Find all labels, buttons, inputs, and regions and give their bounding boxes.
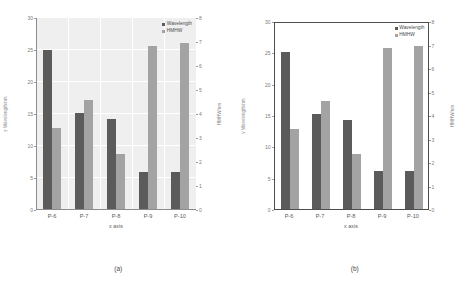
x-tick-label-p-8: P-8 (112, 214, 121, 220)
bar-hmhw-p-6 (52, 128, 61, 210)
legend-label: HMHW (399, 32, 414, 39)
legend-item-hmhw[interactable]: HMHW (395, 32, 425, 39)
bar-hmhw-p-7 (84, 100, 93, 210)
bar-wavelength-p-8 (107, 119, 116, 210)
gridline-vertical (132, 18, 133, 210)
y-tick-label-10: 10 (27, 144, 33, 149)
y2-tick-mark (196, 66, 198, 67)
bar-wavelength-p-9 (374, 171, 382, 209)
bar-wavelength-p-7 (312, 114, 320, 209)
y2-tick-mark (429, 210, 431, 211)
y-tick-label-20: 20 (27, 80, 33, 85)
y2-tick-mark (429, 140, 431, 141)
x-tick-label-p-6: P-6 (48, 214, 57, 220)
y2-tick-label-3: 3 (432, 137, 435, 142)
y-tick-label-20: 20 (265, 82, 271, 87)
y2-tick-label-1: 1 (432, 184, 435, 189)
legend-swatch-icon (162, 23, 165, 26)
x-axis-title: x axis (344, 224, 358, 229)
x-tick-label-p-7: P-7 (80, 214, 89, 220)
gridline-horizontal (36, 113, 196, 114)
legend-swatch-icon (395, 27, 398, 30)
y2-tick-mark (429, 116, 431, 117)
legend-label: Wavelength (399, 25, 424, 32)
y-tick-mark (34, 178, 36, 179)
y-tick-mark (34, 210, 36, 211)
gridline-vertical (68, 18, 69, 210)
y2-tick-mark (429, 69, 431, 70)
y2-tick-label-1: 1 (199, 184, 202, 189)
y2-tick-mark (429, 93, 431, 94)
y-tick-mark (34, 82, 36, 83)
y2-tick-mark (196, 114, 198, 115)
bar-wavelength-p-10 (171, 172, 180, 210)
y-tick-mark (272, 53, 274, 54)
bar-wavelength-p-10 (405, 171, 413, 209)
legend-b: WavelengthHMHW (395, 25, 425, 39)
y-tick-label-30: 30 (265, 20, 271, 25)
gridline-horizontal (36, 81, 196, 82)
y2-tick-mark (196, 162, 198, 163)
bar-wavelength-p-6 (281, 52, 289, 209)
y-tick-mark (34, 50, 36, 51)
y2-tick-label-2: 2 (199, 160, 202, 165)
y-tick-mark (272, 85, 274, 86)
legend-item-hmhw[interactable]: HMHW (162, 28, 192, 35)
y2-tick-label-4: 4 (199, 112, 202, 117)
y2-tick-label-7: 7 (432, 43, 435, 48)
gridline-vertical (164, 18, 165, 210)
legend-item-wavelength[interactable]: Wavelength (395, 25, 425, 32)
legend-a: WavelengthHMHW (162, 21, 192, 35)
y-tick-label-10: 10 (265, 145, 271, 150)
bar-hmhw-p-10 (180, 43, 189, 210)
x-tick-label-p-6: P-6 (285, 214, 294, 220)
legend-item-wavelength[interactable]: Wavelength (162, 21, 192, 28)
y-axis-title: y Wavelength/nm (4, 96, 9, 131)
y2-tick-mark (429, 46, 431, 47)
y-tick-mark (34, 114, 36, 115)
bar-hmhw-p-9 (383, 48, 391, 209)
y-tick-mark (272, 179, 274, 180)
y2-tick-label-4: 4 (432, 114, 435, 119)
y2-tick-mark (196, 210, 198, 211)
y2-tick-label-7: 7 (199, 40, 202, 45)
gridline-vertical (100, 18, 101, 210)
legend-label: HMHW (167, 28, 182, 35)
bar-hmhw-p-9 (148, 46, 157, 210)
y2-tick-label-5: 5 (199, 88, 202, 93)
y2-tick-mark (196, 186, 198, 187)
plot-canvas-b (274, 22, 429, 210)
y-tick-label-5: 5 (268, 176, 271, 181)
y-tick-label-0: 0 (268, 208, 271, 213)
y2-tick-label-0: 0 (432, 208, 435, 213)
legend-label: Wavelength (167, 21, 192, 28)
x-tick-label-p-10: P-10 (407, 214, 419, 220)
y-tick-mark (272, 210, 274, 211)
y-tick-label-25: 25 (265, 51, 271, 56)
plot-canvas-a (36, 18, 196, 210)
bar-hmhw-p-6 (290, 129, 298, 209)
bar-hmhw-p-8 (352, 154, 360, 209)
x-axis-title: x axis (109, 224, 123, 229)
y2-tick-label-8: 8 (432, 20, 435, 25)
y2-tick-label-3: 3 (199, 136, 202, 141)
y2-axis-title: HMHW/nm (218, 103, 223, 125)
panel-caption-b: (b) (351, 265, 359, 272)
y2-tick-mark (196, 138, 198, 139)
y2-tick-mark (196, 90, 198, 91)
y2-tick-mark (429, 163, 431, 164)
x-tick-label-p-9: P-9 (378, 214, 387, 220)
bar-hmhw-p-10 (414, 46, 422, 209)
y-tick-label-15: 15 (27, 112, 33, 117)
x-tick-label-p-7: P-7 (316, 214, 325, 220)
y-tick-mark (272, 116, 274, 117)
bar-hmhw-p-8 (116, 154, 125, 210)
gridline-horizontal (36, 49, 196, 50)
bar-wavelength-p-9 (139, 172, 148, 210)
y-tick-mark (272, 22, 274, 23)
y2-tick-mark (196, 42, 198, 43)
y-tick-mark (34, 146, 36, 147)
legend-swatch-icon (395, 34, 398, 37)
y-tick-label-25: 25 (27, 48, 33, 53)
x-tick-label-p-10: P-10 (174, 214, 186, 220)
